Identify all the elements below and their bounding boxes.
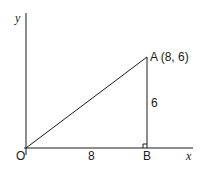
point-a-label: A (8, 6) (150, 50, 189, 64)
side-ab-length: 6 (151, 96, 158, 110)
origin-label: O (16, 149, 25, 163)
point-b-label: B (143, 149, 151, 163)
y-axis-label: y (14, 11, 21, 25)
triangle-diagram: y x O A (8, 6) B 8 6 (0, 0, 202, 177)
side-OA (26, 57, 147, 148)
side-ob-length: 8 (88, 149, 95, 163)
x-axis-label: x (185, 149, 192, 163)
right-angle-marker (143, 144, 147, 148)
